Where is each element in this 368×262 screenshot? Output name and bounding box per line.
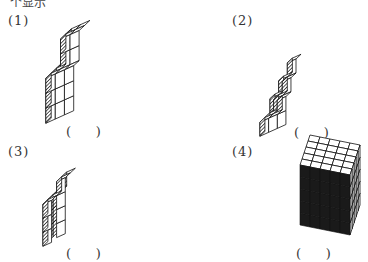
figure-3-label: (3) [8,144,29,159]
figure-1-label: (1) [8,13,29,28]
figure-4-label: (4) [232,144,253,159]
figure-4-cube-block [285,140,368,250]
figure-2-label: (2) [232,13,253,28]
figure-3-cube-stack [40,140,170,250]
figure-2-cube-stack [255,30,368,150]
figure-1-answer-blank[interactable]: ( ) [66,124,101,139]
figure-1-cube-stack [40,0,170,120]
